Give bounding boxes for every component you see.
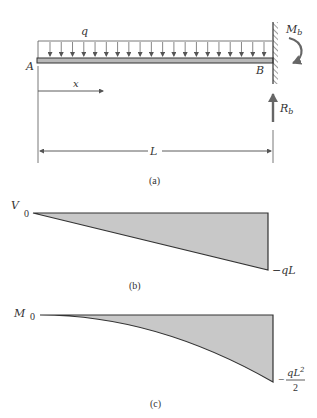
caption-c: (c) bbox=[150, 398, 161, 410]
cantilever-beam-figure: q A B Mb Rb x L (a) V 0 − bbox=[0, 0, 317, 418]
fixed-wall-support bbox=[273, 22, 278, 84]
x-label: x bbox=[73, 78, 79, 89]
load-label-q: q bbox=[81, 25, 88, 38]
svg-text:qL2: qL2 bbox=[287, 366, 305, 378]
moment-area bbox=[40, 315, 273, 382]
shear-area bbox=[33, 213, 268, 270]
panel-c-moment-diagram: M 0 − qL2 2 (c) bbox=[13, 307, 305, 410]
moment-zero-label: 0 bbox=[30, 311, 35, 322]
distributed-load bbox=[38, 41, 272, 58]
beam bbox=[37, 58, 273, 63]
moment-end-value: − qL2 2 bbox=[278, 366, 305, 393]
shear-axis-label: V bbox=[11, 199, 20, 212]
svg-text:2: 2 bbox=[293, 382, 298, 393]
point-b-label: B bbox=[255, 64, 264, 77]
shear-zero-label: 0 bbox=[24, 208, 29, 219]
point-a-label: A bbox=[25, 60, 34, 73]
shear-end-value: −qL bbox=[272, 264, 296, 277]
panel-a-beam: q A B Mb Rb x L (a) bbox=[25, 22, 302, 187]
caption-b: (b) bbox=[129, 280, 141, 292]
reaction-label: Rb bbox=[279, 102, 293, 116]
caption-a: (a) bbox=[149, 175, 160, 187]
moment-axis-label: M bbox=[13, 307, 26, 320]
moment-label: Mb bbox=[285, 23, 302, 37]
load-arrow-icons bbox=[50, 42, 264, 56]
panel-b-shear-diagram: V 0 −qL (b) bbox=[11, 199, 296, 292]
svg-text:−: − bbox=[278, 373, 284, 385]
moment-arrow-icon bbox=[289, 38, 302, 63]
length-label: L bbox=[149, 145, 157, 158]
